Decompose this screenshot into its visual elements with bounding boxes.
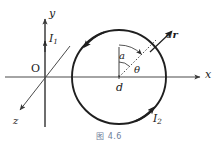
x-axis-label: x [205, 69, 211, 80]
dr-vector-label: dr [166, 30, 178, 40]
y-axis-label: y [49, 8, 55, 19]
loop-current-label: I2 [153, 113, 162, 125]
origin-label: O [31, 63, 40, 74]
angle-theta-label: θ [134, 65, 140, 75]
diagram-canvas [0, 0, 218, 150]
loop-current-subscript: 2 [157, 117, 162, 126]
theta-arc [119, 62, 130, 66]
wire-current-label: I1 [49, 33, 58, 45]
dr-vector-symbol: r [172, 29, 177, 40]
loop-direction-arrow-top [86, 32, 105, 45]
wire-current-subscript: 1 [53, 37, 58, 46]
z-axis-label: z [13, 116, 18, 126]
radius-label: a [119, 51, 125, 61]
distance-label: d [116, 82, 123, 93]
loop-direction-arrow-bottom [135, 109, 153, 121]
physics-figure: y x z O I1 I2 a θ d dr 图 4.6 [0, 0, 218, 150]
figure-caption: 图 4.6 [0, 130, 218, 141]
